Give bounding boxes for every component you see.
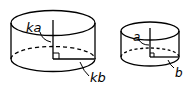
large-height-label: ka	[26, 20, 42, 35]
large-cylinder	[11, 11, 95, 77]
large-height-pointer	[40, 32, 51, 42]
large-radius-pointer	[80, 62, 89, 76]
small-height-label: a	[133, 30, 140, 44]
small-height-pointer	[139, 40, 149, 45]
large-right-angle-mark	[53, 53, 59, 59]
similar-cylinders-diagram: ka kb a b	[0, 0, 186, 92]
small-radius-label: b	[175, 66, 183, 80]
small-cylinder	[121, 22, 179, 68]
large-radius-label: kb	[90, 70, 106, 85]
diagram-canvas: ka kb a b	[0, 0, 186, 92]
large-cylinder-bottom-front	[11, 59, 95, 72]
